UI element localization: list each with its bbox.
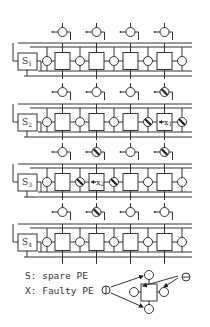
vertical-switch bbox=[58, 208, 67, 217]
pe bbox=[157, 53, 172, 70]
horizontal-switch bbox=[144, 238, 153, 247]
horizontal-switch bbox=[76, 238, 85, 247]
pe bbox=[89, 53, 104, 70]
horizontal-switch bbox=[110, 57, 119, 66]
vertical-switch bbox=[126, 208, 135, 217]
pe bbox=[157, 234, 172, 251]
horizontal-switch bbox=[76, 118, 85, 127]
horizontal-switch bbox=[178, 178, 187, 187]
vertical-switch bbox=[126, 28, 135, 37]
pe bbox=[123, 174, 138, 191]
vertical-switch bbox=[92, 88, 101, 97]
horizontal-switch bbox=[76, 178, 85, 187]
vertical-switch bbox=[58, 88, 67, 97]
horizontal-switch bbox=[144, 178, 153, 187]
vertical-switch bbox=[160, 28, 169, 37]
horizontal-switch bbox=[110, 178, 119, 187]
faulty-pe: x1 bbox=[157, 114, 172, 131]
horizontal-switch bbox=[43, 118, 52, 127]
pe bbox=[123, 53, 138, 70]
horizontal-switch bbox=[178, 57, 187, 66]
vertical-switch bbox=[92, 148, 101, 157]
pe bbox=[89, 114, 104, 131]
horizontal-switch bbox=[178, 238, 187, 247]
vertical-switch bbox=[160, 208, 169, 217]
vertical-switch bbox=[58, 28, 67, 37]
spare-pe-S4: S4 bbox=[18, 234, 37, 251]
horizontal-switch bbox=[178, 118, 187, 127]
pe bbox=[123, 114, 138, 131]
spare-pe-S3: S3 bbox=[18, 174, 37, 191]
horizontal-switch bbox=[43, 57, 52, 66]
horizontal-switch bbox=[110, 118, 119, 127]
svg-text:x1: x1 bbox=[164, 118, 172, 127]
legend-diagram bbox=[102, 271, 190, 314]
pe bbox=[157, 174, 172, 191]
vertical-switch bbox=[92, 28, 101, 37]
vertical-switch bbox=[126, 88, 135, 97]
horizontal-switch bbox=[43, 178, 52, 187]
spare-pe-S1: S1 bbox=[18, 53, 37, 70]
pe bbox=[55, 53, 70, 70]
horizontal-switch bbox=[43, 238, 52, 247]
horizontal-switch bbox=[144, 118, 153, 127]
pe bbox=[55, 174, 70, 191]
vertical-switch bbox=[160, 148, 169, 157]
vertical-switch bbox=[126, 148, 135, 157]
legend-spare: S: spare PE bbox=[25, 270, 88, 281]
svg-text:x2: x2 bbox=[96, 178, 105, 187]
pe bbox=[123, 234, 138, 251]
vertical-switch bbox=[58, 148, 67, 157]
pe bbox=[89, 234, 104, 251]
vertical-switch bbox=[92, 208, 101, 217]
spare-pe-S2: S2 bbox=[18, 114, 37, 131]
horizontal-switch bbox=[144, 57, 153, 66]
faulty-pe: x2 bbox=[89, 174, 105, 191]
vertical-switch bbox=[160, 88, 169, 97]
pe bbox=[55, 234, 70, 251]
pe bbox=[55, 114, 70, 131]
legend-faulty: X: Faulty PE bbox=[25, 285, 94, 296]
horizontal-switch bbox=[110, 238, 119, 247]
horizontal-switch bbox=[76, 57, 85, 66]
